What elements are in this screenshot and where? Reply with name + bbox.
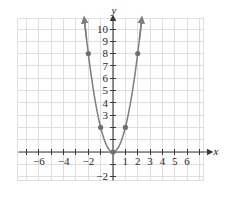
x-axis-label: x <box>213 145 219 157</box>
data-point <box>135 51 140 56</box>
y-tick-label: 7 <box>103 60 109 72</box>
y-tick-label: 9 <box>103 35 109 47</box>
y-tick-label: 4 <box>103 97 109 109</box>
y-tick-label: −2 <box>96 170 108 182</box>
y-tick-label: 6 <box>103 72 109 84</box>
y-axis-label: y <box>111 4 117 16</box>
x-tick-label: 5 <box>172 155 178 167</box>
x-tick-label: −4 <box>58 155 70 167</box>
x-tick-label: 4 <box>160 155 166 167</box>
y-tick-label: 8 <box>103 47 109 59</box>
x-tick-label: 2 <box>135 155 141 167</box>
data-point <box>123 125 128 130</box>
x-tick-label: 6 <box>184 155 190 167</box>
data-point <box>86 51 91 56</box>
y-tick-label: 5 <box>103 84 109 96</box>
y-tick-label: 10 <box>97 23 109 35</box>
x-tick-label: −6 <box>33 155 45 167</box>
data-point <box>98 125 103 130</box>
x-tick-label: −2 <box>82 155 94 167</box>
y-tick-label: 3 <box>103 109 109 121</box>
data-point <box>110 149 115 154</box>
x-tick-label: 3 <box>147 155 153 167</box>
x-tick-label: 1 <box>123 155 129 167</box>
graph-figure: −6−4−2123456 109876543−2 x y <box>0 0 227 197</box>
coordinate-plane-plot: −6−4−2123456 109876543−2 x y <box>0 0 227 197</box>
